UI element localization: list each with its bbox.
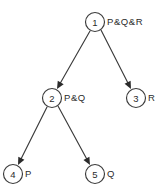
edge-line bbox=[59, 31, 90, 85]
edge-1-to-2 bbox=[57, 31, 90, 89]
tree-node-1[interactable]: 1P&Q&R bbox=[86, 13, 144, 32]
node-number: 1 bbox=[92, 17, 97, 28]
node-formula-label: Q bbox=[107, 168, 115, 179]
tree-node-3[interactable]: 3R bbox=[127, 89, 156, 108]
tree-node-2[interactable]: 2P&Q bbox=[43, 89, 86, 108]
node-number: 2 bbox=[49, 93, 54, 104]
node-formula-label: P&Q bbox=[64, 92, 86, 103]
node-formula-label: R bbox=[148, 92, 155, 103]
tree-diagram: 1P&Q&R2P&Q3R4P5Q bbox=[0, 0, 164, 192]
tree-diagram-canvas: 1P&Q&R2P&Q3R4P5Q bbox=[0, 0, 164, 192]
tree-node-5[interactable]: 5Q bbox=[86, 165, 116, 184]
node-number: 5 bbox=[92, 169, 97, 180]
tree-node-4[interactable]: 4P bbox=[4, 165, 32, 184]
node-formula-label: P bbox=[25, 168, 32, 179]
node-number: 4 bbox=[10, 169, 15, 180]
nodes-group: 1P&Q&R2P&Q3R4P5Q bbox=[4, 13, 156, 184]
edge-1-to-3 bbox=[101, 30, 131, 89]
node-formula-label: P&Q&R bbox=[107, 16, 143, 27]
edge-line bbox=[101, 30, 129, 85]
edge-2-to-4 bbox=[18, 107, 47, 165]
edge-line bbox=[58, 106, 88, 161]
node-number: 3 bbox=[133, 93, 138, 104]
edge-2-to-5 bbox=[58, 106, 90, 165]
edge-line bbox=[20, 107, 47, 161]
